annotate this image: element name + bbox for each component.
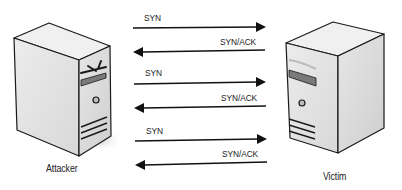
- message-label: SYN: [145, 67, 162, 78]
- syn-arrow-1: [133, 22, 266, 32]
- message-label: SYN: [146, 125, 163, 136]
- attacker-label: Attacker: [46, 163, 78, 174]
- syn-ack-arrow-1: [133, 47, 265, 57]
- diagram-canvas: [0, 0, 402, 190]
- victim-server-icon: [286, 22, 386, 153]
- message-label: SYN/ACK: [220, 36, 256, 47]
- message-label: SYN/ACK: [221, 92, 257, 103]
- syn-arrow-2: [134, 77, 266, 87]
- victim-label: Victim: [323, 171, 346, 182]
- syn-flood-diagram: SYN SYN/ACK SYN SYN/ACK SYN SYN/ACK Atta…: [0, 0, 402, 190]
- message-label: SYN/ACK: [222, 148, 258, 159]
- syn-ack-arrow-3: [135, 160, 267, 170]
- syn-ack-arrow-2: [134, 103, 266, 113]
- message-label: SYN: [144, 12, 161, 23]
- attacker-server-icon: [14, 23, 122, 156]
